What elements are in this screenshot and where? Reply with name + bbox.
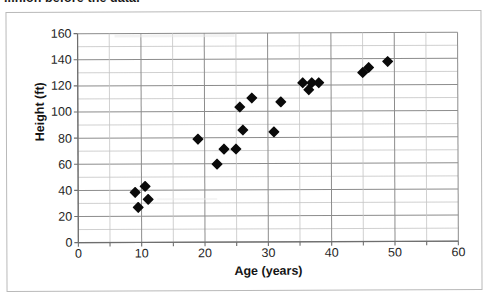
x-tick-label: 30	[261, 246, 275, 260]
x-axis-tick-labels: 0102030405060	[78, 245, 458, 264]
y-axis-title: Height (ft)	[33, 52, 47, 172]
clipped-heading-text: ...hion before the data.	[4, 0, 140, 5]
x-tick-label: 40	[325, 246, 339, 260]
y-tick-label: 140	[51, 53, 72, 67]
x-tick-label: 0	[75, 247, 82, 261]
gridlines	[78, 32, 459, 242]
y-tick-label: 160	[51, 27, 72, 41]
y-tick-label: 100	[51, 105, 72, 119]
y-tick-label: 20	[58, 210, 72, 224]
plot-area	[78, 32, 459, 242]
y-tick-label: 60	[58, 157, 72, 171]
x-axis-title: Age (years)	[78, 263, 458, 278]
x-tick-label: 50	[388, 245, 402, 259]
scatter-chart: 020406080100120140160 Height (ft) 010203…	[5, 10, 482, 292]
y-tick-label: 40	[58, 183, 72, 197]
y-tick-label: 0	[65, 236, 72, 250]
y-tick-label: 80	[58, 131, 72, 145]
y-tick-label: 120	[51, 79, 72, 93]
x-tick-label: 20	[198, 246, 212, 260]
x-tick-label: 10	[135, 246, 149, 260]
x-tick-label: 60	[451, 245, 465, 259]
